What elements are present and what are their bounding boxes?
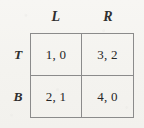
payoff-cell-top-left: 1, 0 <box>31 34 82 76</box>
payoff-grid: 1, 0 3, 2 2, 1 4, 0 <box>30 33 134 118</box>
payoff-cell-top-right: 3, 2 <box>82 34 133 76</box>
payoff-cell-bottom-left: 2, 1 <box>31 76 82 118</box>
payoff-matrix-figure: L R T B 1, 0 3, 2 2, 1 4, 0 <box>0 0 144 128</box>
row-header-bottom: B <box>8 89 28 105</box>
row-header-top: T <box>8 47 28 63</box>
payoff-cell-bottom-right: 4, 0 <box>82 76 133 118</box>
column-header-left: L <box>30 9 82 25</box>
column-header-right: R <box>82 9 134 25</box>
